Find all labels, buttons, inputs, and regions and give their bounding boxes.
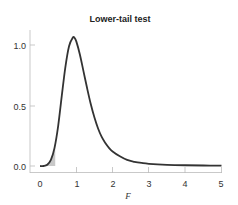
y-axis: 1.0 0.5 0.0: [13, 30, 35, 173]
plot-area: [40, 37, 222, 166]
density-curve: [40, 37, 222, 166]
y-tick-label: 0.0: [13, 162, 26, 172]
f-distribution-chart: Lower-tail test 1.0 0.5 0.0 0 1 2 3 4 5 …: [0, 0, 238, 205]
x-tick-label: 4: [182, 179, 187, 189]
x-tick-label: 5: [218, 179, 223, 189]
x-axis: 0 1 2 3 4 5 F: [30, 167, 224, 201]
x-tick-label: 1: [74, 179, 79, 189]
x-tick-label: 0: [37, 179, 42, 189]
y-tick-label: 1.0: [13, 41, 26, 51]
x-tick-label: 3: [146, 179, 151, 189]
x-tick-label: 2: [110, 179, 115, 189]
chart-title: Lower-tail test: [89, 14, 150, 24]
y-tick-label: 0.5: [13, 102, 26, 112]
x-axis-label: F: [124, 191, 131, 201]
